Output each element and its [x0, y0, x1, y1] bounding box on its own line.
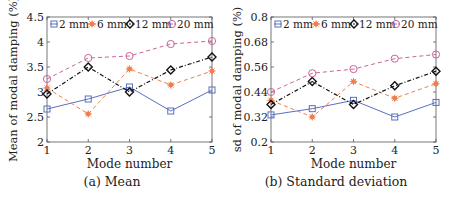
series-6-mm — [43, 65, 215, 117]
y-tick-label: 0.44 — [244, 86, 269, 99]
x-tick-label: 2 — [85, 144, 92, 157]
legend-label: 20 mm — [401, 18, 438, 30]
asterisk-marker — [432, 80, 439, 87]
legend-label: 12 mm — [135, 18, 172, 30]
legend-item: 20 mm — [392, 18, 438, 30]
y-tick-label: 3 — [37, 86, 44, 99]
legend-label: 6 mm — [321, 18, 351, 30]
asterisk-marker — [350, 78, 357, 85]
chart-standard-deviation: 0.20.320.440.560.680.812345Mode numbersd… — [224, 0, 448, 172]
x-tick-label: 5 — [433, 144, 440, 157]
y-tick-label: 2.5 — [27, 111, 45, 124]
caption-mean: (a) Mean — [0, 174, 224, 189]
x-tick-label: 3 — [350, 144, 357, 157]
asterisk-marker — [309, 113, 316, 120]
x-tick-label: 4 — [167, 144, 174, 157]
x-tick-label: 2 — [309, 144, 316, 157]
chart-mean: 22.533.544.512345Mode numberMean of moda… — [0, 0, 224, 172]
x-tick-label: 4 — [391, 144, 398, 157]
y-tick-label: 0.2 — [251, 136, 269, 149]
diamond-marker — [391, 82, 399, 90]
y-axis-label: Mean of modal damping (%) — [6, 0, 20, 162]
series-12-mm — [267, 67, 440, 108]
legend-item: 20 mm — [168, 18, 214, 30]
series-6-mm — [267, 78, 439, 121]
asterisk-marker — [208, 67, 215, 74]
asterisk-marker — [126, 65, 133, 72]
legend-label: 2 mm — [59, 18, 89, 30]
y-tick-label: 0.32 — [244, 111, 269, 124]
diamond-marker — [84, 63, 92, 71]
x-tick-label: 1 — [44, 144, 51, 157]
x-axis-label: Mode number — [311, 157, 397, 171]
legend-item: 2 mm — [50, 18, 89, 30]
x-tick-label: 5 — [209, 144, 216, 157]
legend-item: 6 mm — [312, 18, 351, 30]
asterisk-marker — [312, 20, 319, 27]
caption-standard-deviation: (b) Standard deviation — [224, 174, 448, 189]
x-tick-label: 3 — [126, 144, 133, 157]
y-tick-label: 0.8 — [251, 11, 269, 24]
chart-mean-panel: 22.533.544.512345Mode numberMean of moda… — [0, 0, 224, 198]
y-tick-label: 0.68 — [244, 36, 269, 49]
legend-label: 20 mm — [177, 18, 214, 30]
legend: 2 mm6 mm12 mm20 mm — [274, 18, 438, 30]
series-20-mm — [267, 51, 439, 96]
y-axis-label: sd of modal damping (%) — [230, 7, 244, 153]
x-axis-label: Mode number — [87, 157, 173, 171]
asterisk-marker — [88, 20, 95, 27]
x-tick-label: 1 — [268, 144, 275, 157]
legend-label: 2 mm — [283, 18, 313, 30]
circle-marker — [85, 54, 92, 61]
legend: 2 mm6 mm12 mm20 mm — [50, 18, 214, 30]
y-tick-label: 0.56 — [244, 61, 269, 74]
asterisk-marker — [167, 81, 174, 88]
asterisk-marker — [85, 110, 92, 117]
legend-item: 2 mm — [274, 18, 313, 30]
asterisk-marker — [391, 95, 398, 102]
y-tick-label: 4.5 — [27, 11, 45, 24]
legend-label: 6 mm — [97, 18, 127, 30]
chart-sd-panel: 0.20.320.440.560.680.812345Mode numbersd… — [224, 0, 448, 198]
legend-item: 12 mm — [126, 18, 172, 30]
series-20-mm — [43, 37, 215, 82]
legend-item: 6 mm — [88, 18, 127, 30]
legend-item: 12 mm — [350, 18, 396, 30]
legend-label: 12 mm — [359, 18, 396, 30]
y-tick-label: 4 — [37, 36, 44, 49]
y-tick-label: 3.5 — [27, 61, 45, 74]
